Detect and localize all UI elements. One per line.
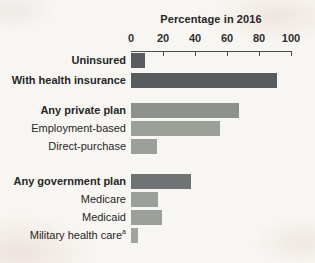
bar-label: Medicaid — [0, 210, 126, 225]
figure-health-insurance-coverage: Percentage in 2016 020406080100 Uninsure… — [0, 0, 315, 263]
chart-row: Military health carea — [0, 228, 315, 243]
bar-track — [131, 73, 315, 88]
x-tick-label: 40 — [189, 32, 201, 44]
x-axis-tick-labels: 020406080100 — [131, 32, 291, 46]
x-tick-label: 100 — [282, 32, 300, 44]
bar-track — [131, 174, 315, 189]
bar — [131, 103, 239, 118]
chart-row: Uninsured — [0, 53, 315, 68]
bar-label: Direct-purchase — [0, 139, 126, 154]
bar-track — [131, 121, 315, 136]
bar-label: Military health carea — [0, 228, 126, 243]
chart-row: Medicaid — [0, 210, 315, 225]
bar — [131, 210, 162, 225]
chart-row: With health insurance — [0, 73, 315, 88]
chart-row: Any government plan — [0, 174, 315, 189]
bar-label: Any private plan — [0, 103, 126, 118]
bar — [131, 121, 220, 136]
x-tick-label: 60 — [221, 32, 233, 44]
bar-label: Any government plan — [0, 174, 126, 189]
bar — [131, 139, 157, 154]
bar — [131, 73, 277, 88]
chart-rows: UninsuredWith health insuranceAny privat… — [0, 53, 315, 243]
chart-row: Any private plan — [0, 103, 315, 118]
footnote-marker: a — [122, 228, 126, 235]
bar-label: Uninsured — [0, 53, 126, 68]
bar-label: With health insurance — [0, 73, 126, 88]
x-tick-label: 0 — [128, 32, 134, 44]
chart-row: Medicare — [0, 192, 315, 207]
x-tick-label: 20 — [157, 32, 169, 44]
chart-row: Direct-purchase — [0, 139, 315, 154]
bar-label: Medicare — [0, 192, 126, 207]
bar — [131, 192, 158, 207]
bar — [131, 53, 145, 68]
bar-track — [131, 139, 315, 154]
bar-track — [131, 210, 315, 225]
bar — [131, 174, 191, 189]
bar-track — [131, 228, 315, 243]
bar-track — [131, 53, 315, 68]
bar-chart: Percentage in 2016 020406080100 Uninsure… — [0, 0, 315, 263]
bar-track — [131, 192, 315, 207]
bar-label: Employment-based — [0, 121, 126, 136]
x-axis-line — [131, 51, 292, 52]
chart-row: Employment-based — [0, 121, 315, 136]
chart-title: Percentage in 2016 — [131, 13, 291, 25]
bar-track — [131, 103, 315, 118]
bar — [131, 228, 138, 243]
x-tick-label: 80 — [253, 32, 265, 44]
